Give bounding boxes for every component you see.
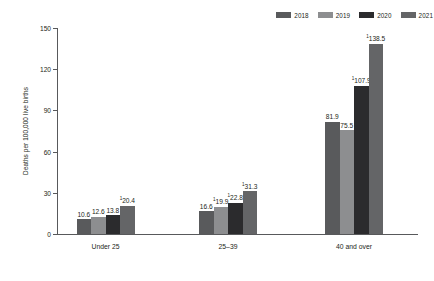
bar-value-label: 122.8 bbox=[228, 194, 243, 201]
y-axis-tick-mark bbox=[53, 193, 57, 194]
bar-rect[interactable] bbox=[77, 219, 92, 234]
plot-area: 030609012015010.612.613.8120.416.6119.91… bbox=[57, 28, 417, 234]
y-axis-tick-mark bbox=[53, 69, 57, 70]
legend-item: 2021 bbox=[401, 12, 433, 19]
bar-item[interactable]: 131.3 bbox=[243, 28, 258, 234]
legend-item: 2019 bbox=[318, 12, 350, 19]
x-axis-line bbox=[57, 234, 418, 235]
x-axis-category-label: Under 25 bbox=[92, 243, 120, 251]
legend-item: 2020 bbox=[359, 12, 391, 19]
bar-value-label: 10.6 bbox=[77, 211, 90, 218]
legend-label: 2018 bbox=[294, 12, 308, 19]
bar-item[interactable]: 81.9 bbox=[325, 28, 340, 234]
legend-label: 2019 bbox=[336, 12, 350, 19]
bar-value-label: 13.8 bbox=[106, 207, 119, 214]
bar-item[interactable]: 120.4 bbox=[120, 28, 135, 234]
legend-swatch-icon bbox=[276, 12, 291, 18]
y-axis-tick-mark bbox=[53, 234, 57, 235]
x-axis-category-label: 40 and over bbox=[336, 243, 372, 251]
bar-item[interactable]: 1138.5 bbox=[369, 28, 384, 234]
legend-item: 2018 bbox=[276, 12, 308, 19]
bar-group: 16.6119.9122.8131.3 bbox=[199, 28, 257, 234]
bar-item[interactable]: 16.6 bbox=[199, 28, 214, 234]
bar-item[interactable]: 13.8 bbox=[106, 28, 121, 234]
bar-rect[interactable] bbox=[228, 203, 243, 234]
bar-item[interactable]: 1107.9 bbox=[354, 28, 369, 234]
legend-swatch-icon bbox=[318, 12, 333, 18]
bar-group: 10.612.613.8120.4 bbox=[77, 28, 135, 234]
bar-rect[interactable] bbox=[369, 44, 384, 234]
bar-rect[interactable] bbox=[91, 217, 106, 234]
y-axis-title: Deaths per 100,000 live births bbox=[20, 28, 30, 234]
y-axis-tick-label: 90 bbox=[44, 107, 51, 114]
bar-value-label: 16.6 bbox=[200, 203, 213, 210]
bar-value-label: 119.9 bbox=[213, 198, 228, 205]
bar-item[interactable]: 75.5 bbox=[340, 28, 355, 234]
bar-rect[interactable] bbox=[340, 130, 355, 234]
bar-group: 81.975.51107.91138.5 bbox=[325, 28, 383, 234]
y-axis-tick-mark bbox=[53, 110, 57, 111]
bar-value-label: 81.9 bbox=[326, 113, 339, 120]
bar-rect[interactable] bbox=[243, 191, 258, 234]
bar-item[interactable]: 119.9 bbox=[214, 28, 229, 234]
bar-value-label: 12.6 bbox=[92, 208, 105, 215]
bar-item[interactable]: 10.6 bbox=[77, 28, 92, 234]
bar-value-label: 120.4 bbox=[120, 197, 135, 204]
bar-rect[interactable] bbox=[106, 215, 121, 234]
bar-value-label: 1138.5 bbox=[366, 35, 385, 42]
bar-item[interactable]: 12.6 bbox=[91, 28, 106, 234]
legend-swatch-icon bbox=[359, 12, 374, 18]
y-axis-tick-label: 30 bbox=[44, 189, 51, 196]
y-axis-tick-label: 0 bbox=[47, 231, 51, 238]
legend-swatch-icon bbox=[401, 12, 416, 18]
bar-rect[interactable] bbox=[354, 86, 369, 234]
y-axis-tick-mark bbox=[53, 28, 57, 29]
bar-value-label: 131.3 bbox=[242, 183, 257, 190]
bar-value-label: 75.5 bbox=[340, 122, 353, 129]
y-axis-tick-label: 120 bbox=[40, 66, 51, 73]
y-axis-tick-mark bbox=[53, 152, 57, 153]
y-axis-tick-label: 150 bbox=[40, 25, 51, 32]
chart-figure: 2018201920202021 Deaths per 100,000 live… bbox=[0, 0, 434, 281]
bar-rect[interactable] bbox=[120, 206, 135, 234]
bar-item[interactable]: 122.8 bbox=[228, 28, 243, 234]
chart-legend: 2018201920202021 bbox=[243, 9, 433, 21]
legend-label: 2020 bbox=[377, 12, 391, 19]
legend-label: 2021 bbox=[419, 12, 433, 19]
y-axis-tick-label: 60 bbox=[44, 148, 51, 155]
bar-rect[interactable] bbox=[325, 122, 340, 234]
bar-rect[interactable] bbox=[199, 211, 214, 234]
bar-rect[interactable] bbox=[214, 207, 229, 234]
x-axis-category-label: 25–39 bbox=[219, 243, 238, 251]
